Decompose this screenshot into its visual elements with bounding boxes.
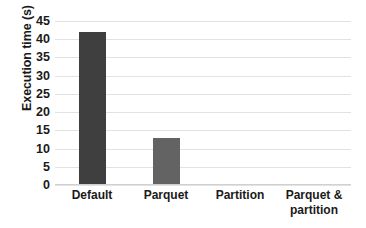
x-tick-label-line: Partition — [203, 188, 277, 203]
bars-group — [55, 21, 351, 185]
y-tick-label: 35 — [20, 50, 50, 64]
x-tick-label-line: Default — [55, 188, 129, 203]
y-tick-label: 30 — [20, 69, 50, 83]
x-tick-label: Parquet — [129, 188, 203, 203]
y-tick-label: 25 — [20, 87, 50, 101]
gridline — [55, 185, 351, 186]
y-tick-label: 15 — [20, 123, 50, 137]
x-tick-label-line: Parquet & — [277, 188, 351, 203]
y-tick-label: 5 — [20, 160, 50, 174]
y-tick-label: 10 — [20, 142, 50, 156]
x-tick-label-line: partition — [277, 203, 351, 218]
plot-area — [55, 21, 351, 185]
y-tick-label: 45 — [20, 14, 50, 28]
y-axis-tick-labels: 051015202530354045 — [20, 14, 50, 192]
y-tick-label: 40 — [20, 32, 50, 46]
x-axis-tick-labels: DefaultParquetPartitionParquet &partitio… — [55, 188, 351, 226]
x-tick-label-line: Parquet — [129, 188, 203, 203]
bar — [79, 32, 106, 185]
bar-chart: Execution time (s) 051015202530354045 De… — [0, 0, 366, 228]
bar — [153, 138, 180, 185]
y-tick-label: 0 — [20, 178, 50, 192]
y-tick-label: 20 — [20, 105, 50, 119]
x-tick-label: Parquet &partition — [277, 188, 351, 218]
x-axis-baseline — [55, 184, 351, 185]
x-tick-label: Partition — [203, 188, 277, 203]
x-tick-label: Default — [55, 188, 129, 203]
